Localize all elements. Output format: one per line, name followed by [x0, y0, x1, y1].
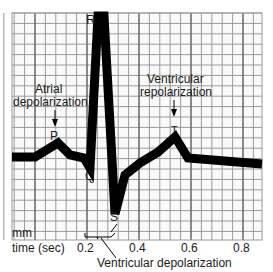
atrial-label-line1: Atrial	[35, 82, 62, 96]
tick-label-0-4: 0.4	[129, 241, 146, 255]
grid-unit-label: mm	[12, 226, 32, 240]
qrs-pointer-line	[101, 238, 116, 258]
ventricular-depol-label: Ventricular depolarization	[97, 256, 232, 270]
t-wave-label: T	[171, 124, 178, 136]
time-axis-label: time (sec)	[12, 241, 65, 255]
grid-background	[12, 13, 262, 240]
ecg-diagram: R P Q S T Atrial depolarization Ventricu…	[0, 0, 273, 272]
ventricular-repol-label-line1: Ventricular	[147, 72, 204, 86]
s-wave-label: S	[110, 210, 118, 224]
tick-label-0-8: 0.8	[233, 241, 250, 255]
tick-label-0-2: 0.2	[77, 241, 94, 255]
tick-label-0-6: 0.6	[181, 241, 198, 255]
q-wave-label: Q	[85, 169, 94, 183]
atrial-label-line2: depolarization	[13, 95, 88, 109]
r-wave-label: R	[86, 12, 95, 27]
p-wave-label: P	[50, 129, 58, 143]
ventricular-repol-label-line2: repolarization	[140, 85, 212, 99]
